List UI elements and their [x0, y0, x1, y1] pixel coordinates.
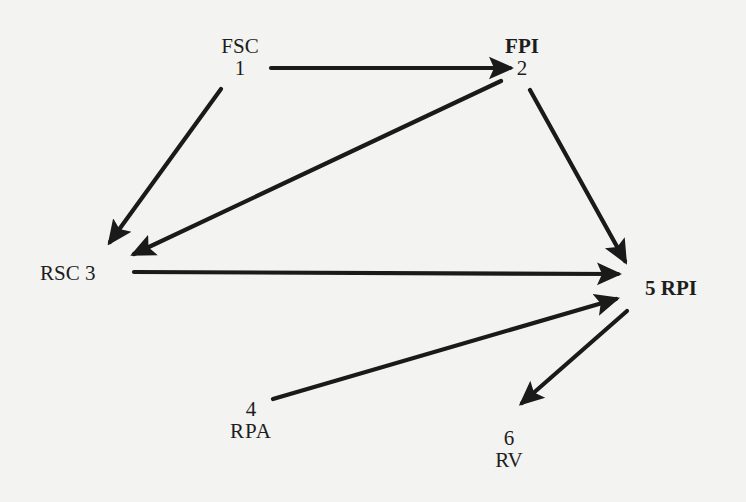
node-rpa-number: 4	[246, 398, 257, 420]
node-rpi-text: 5 RPI	[645, 276, 697, 300]
node-fsc-number: 1	[235, 57, 246, 79]
node-rsc: RSC 3	[40, 262, 95, 284]
node-rpa: 4 RPA	[230, 398, 272, 442]
edges-layer	[0, 0, 746, 502]
node-diagram: FSC 1 FPI 2 RSC 3 5 RPI 4 RPA 6 RV	[0, 0, 746, 502]
node-rv-name: RV	[495, 449, 523, 471]
node-rv-number: 6	[504, 427, 515, 449]
edge-fpi-to-rpi	[530, 90, 625, 261]
edge-rpi-to-rv	[522, 311, 627, 403]
node-rv: 6 RV	[495, 427, 523, 471]
node-rsc-text: RSC 3	[40, 261, 95, 285]
node-rpi: 5 RPI	[645, 277, 697, 299]
node-fpi-name: FPI	[505, 35, 539, 57]
node-fsc: FSC 1	[221, 35, 258, 79]
edge-rpa-to-rpi	[273, 299, 616, 399]
node-fpi: FPI 2	[505, 35, 539, 79]
edge-fpi-to-rsc	[134, 81, 501, 254]
node-fsc-name: FSC	[221, 35, 258, 57]
node-rpa-name: RPA	[230, 420, 272, 442]
node-fpi-number: 2	[517, 57, 528, 79]
edge-rsc-to-rpi	[134, 272, 618, 274]
